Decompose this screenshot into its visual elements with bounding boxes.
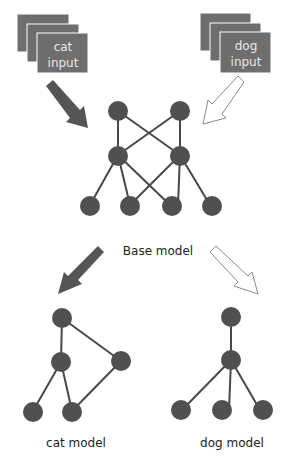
dog-node [171,400,191,420]
transfer-learning-diagram: cat input dog input Ba [0,0,288,465]
dog-model-nodes [171,307,273,420]
arrow-base-to-cat-icon [58,246,104,294]
dog-input-label-line1: dog [235,39,258,53]
arrow-base-to-dog-icon [210,246,258,294]
cat-node [62,402,82,422]
cat-input-stack: cat input [17,14,88,73]
dog-model-edges [182,317,260,410]
base-node [170,101,190,121]
base-node [120,196,140,216]
cat-model-nodes [23,308,131,422]
base-node [162,196,182,216]
cat-model-label: cat model [46,436,106,450]
base-model-nodes [80,101,222,216]
cat-node [51,352,71,372]
dog-model-label: dog model [200,436,264,450]
cat-input-label-line2: input [48,56,79,70]
base-node [80,196,100,216]
dog-input-stack: dog input [200,13,271,73]
base-node [202,196,222,216]
base-node [170,146,190,166]
dog-node [221,350,241,370]
base-node [108,101,128,121]
arrow-cat-to-base-icon [46,80,88,128]
base-model-label: Base model [123,244,193,258]
base-model-edges [90,111,210,205]
dog-node [212,400,232,420]
dog-input-label-line2: input [231,55,262,69]
dog-node [221,307,241,327]
cat-node [52,308,72,328]
dog-node [253,400,273,420]
base-node [108,146,128,166]
cat-input-label-line1: cat [54,40,73,54]
cat-node [111,351,131,371]
cat-model-edges [33,318,121,411]
cat-node [23,402,43,422]
arrow-dog-to-base-icon [203,76,244,124]
